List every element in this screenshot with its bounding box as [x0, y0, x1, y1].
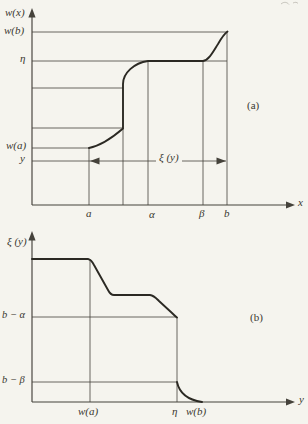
panel-b-tick-wa: w(a) [78, 406, 98, 417]
panel-a-x-axis-arrow-icon [286, 202, 295, 209]
panel-b-xi-curve [32, 259, 202, 402]
panel-a-span-arrow-right-icon [217, 158, 227, 165]
panel-a-tick-beta: β [199, 208, 204, 219]
panel-a-tick-eta: η [20, 53, 25, 64]
panel-a-tag: (a) [247, 100, 259, 111]
panel-b-tag: (b) [250, 312, 263, 323]
panel-a-span-label: ξ (y) [156, 152, 182, 163]
panel-a-y-axis-arrow-icon [28, 8, 35, 18]
panel-a-x-axis-title: x [298, 197, 303, 208]
scanned-figure-page: w(x) w(b) η w(a) y a α β b x (a) ξ (y) ξ… [0, 0, 308, 424]
panel-a-tick-wa: w(a) [6, 140, 26, 151]
panel-b-x-axis-title: y [299, 394, 304, 405]
panel-b-droplines [32, 259, 177, 402]
scan-crop-artifact [281, 2, 298, 4]
panel-b-tick-b-minus-alpha: b − α [2, 310, 25, 321]
panel-b-tick-wb: w(b) [186, 406, 206, 417]
panel-a-tick-y: y [20, 153, 25, 164]
panel-a-tick-b: b [224, 208, 230, 219]
panel-b-y-axis-title: ξ (y) [7, 236, 27, 247]
panel-b-y-axis-arrow-icon [28, 231, 35, 241]
panel-b-tick-eta: η [172, 406, 177, 417]
panel-a-y-axis-title: w(x) [5, 7, 25, 18]
panel-a-span-arrow-left-icon [90, 158, 100, 165]
panel-b-x-axis-arrow-icon [286, 399, 295, 406]
panel-a-wx-curve [89, 32, 228, 149]
panel-a-droplines [32, 32, 227, 205]
panel-a-tick-wb: w(b) [4, 25, 24, 36]
panel-a-tick-alpha: α [149, 209, 155, 220]
panel-b-tick-b-minus-beta: b − β [2, 375, 25, 386]
panel-a-tick-a: a [86, 208, 92, 219]
